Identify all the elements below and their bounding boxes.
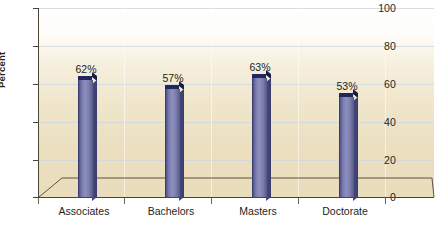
gridline-20 [38,160,434,161]
y-tick-label-100: 100 [378,2,396,14]
bar-chart: 100 80 60 40 20 0 Percent 62% 57% 63% 53… [0,0,442,229]
bar-bachelors[interactable] [165,89,179,197]
x-tick-label-associates: Associates [41,205,127,217]
bar-value-doctorate: 53% [327,80,367,92]
y-tick-20 [33,160,38,161]
x-tick-4 [385,198,386,204]
y-axis-title: Percent [0,52,7,88]
bar-front-face [339,97,354,197]
bar-masters[interactable] [252,78,266,197]
y-tick-60 [33,84,38,85]
x-tick-label-masters: Masters [215,205,301,217]
plot-area [38,8,434,198]
x-tick-1 [124,198,125,204]
bar-associates[interactable] [78,80,92,197]
bar-value-masters: 63% [240,61,280,73]
vgridline-3 [298,8,299,198]
x-tick-2 [211,198,212,204]
y-tick-label-60: 60 [384,78,396,90]
vgridline-1 [124,8,125,198]
x-tick-0 [38,198,39,204]
bar-value-associates: 62% [66,63,106,75]
bar-front-face [252,78,267,197]
gridline-40 [38,122,434,123]
x-axis [38,197,434,198]
y-tick-40 [33,122,38,123]
x-tick-label-bachelors: Bachelors [128,205,214,217]
y-tick-label-80: 80 [384,40,396,52]
bar-front-face [78,80,93,197]
y-tick-80 [33,46,38,47]
gridline-80 [38,46,434,47]
y-tick-100 [33,8,38,9]
gridline-60 [38,84,434,85]
bar-doctorate[interactable] [339,97,353,197]
bar-value-bachelors: 57% [153,72,193,84]
x-tick-label-doctorate: Doctorate [302,205,388,217]
bar-front-face [165,89,180,197]
y-tick-label-20: 20 [384,154,396,166]
gridline-100 [38,8,434,9]
x-tick-3 [298,198,299,204]
vgridline-2 [211,8,212,198]
vgridline-4 [385,8,386,198]
y-axis [38,8,39,198]
y-tick-label-40: 40 [384,116,396,128]
